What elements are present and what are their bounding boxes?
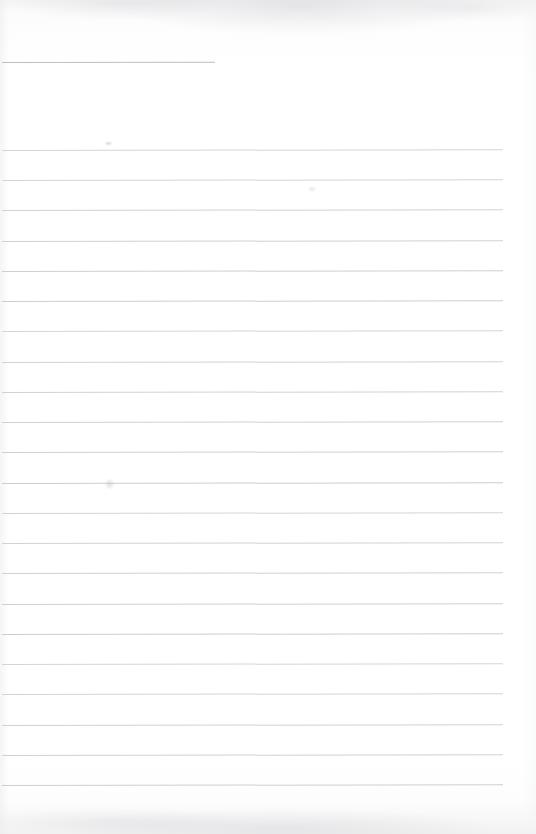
paper-sheet bbox=[0, 0, 536, 834]
scanned-page-root bbox=[0, 0, 536, 834]
